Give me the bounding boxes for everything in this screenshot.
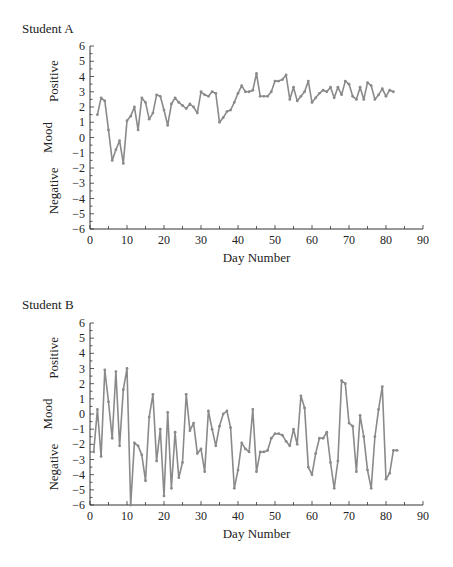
x-tick-label: 0 [87, 509, 93, 523]
x-axis-label: Day Number [223, 526, 291, 541]
data-point [166, 411, 169, 414]
y-axis-positive-label: Positive [46, 337, 61, 379]
data-point [170, 487, 173, 490]
data-point [359, 414, 362, 417]
data-point [340, 379, 343, 382]
x-tick-label: 50 [269, 509, 281, 523]
data-point [266, 449, 269, 452]
data-point [274, 432, 277, 435]
y-tick-label: 1 [79, 392, 85, 406]
x-tick-label: 80 [380, 509, 392, 523]
data-point [144, 479, 147, 482]
data-point [314, 452, 317, 455]
data-point [348, 422, 351, 425]
y-tick-label: −1 [72, 422, 85, 436]
data-point [337, 460, 340, 463]
y-tick-label: −4 [72, 468, 85, 482]
data-point [218, 425, 221, 428]
data-point [92, 451, 95, 454]
data-point [240, 441, 243, 444]
x-tick-label: 20 [158, 509, 170, 523]
data-point [251, 408, 254, 411]
data-point [118, 444, 121, 447]
x-tick-label: 60 [306, 509, 318, 523]
data-point [211, 428, 214, 431]
data-point [237, 469, 240, 472]
plot-student-b: 6543210−1−2−3−4−5−60102030405060708090Da… [0, 0, 453, 567]
data-point [370, 487, 373, 490]
data-point [381, 385, 384, 388]
x-tick-label: 10 [121, 509, 133, 523]
data-point [329, 461, 332, 464]
data-point [115, 370, 118, 373]
x-tick-label: 70 [343, 509, 355, 523]
y-tick-label: 0 [79, 407, 85, 421]
data-point [325, 431, 328, 434]
data-point [129, 504, 132, 507]
data-point [366, 469, 369, 472]
data-point [311, 473, 314, 476]
data-point [185, 393, 188, 396]
data-point [133, 441, 136, 444]
data-point [288, 444, 291, 447]
data-point [181, 461, 184, 464]
data-point [307, 466, 310, 469]
data-point [126, 367, 129, 370]
data-point [259, 451, 262, 454]
data-point [244, 447, 247, 450]
y-tick-label: −2 [72, 437, 85, 451]
data-point [103, 369, 106, 372]
y-tick-label: 6 [79, 316, 85, 330]
data-point [270, 437, 273, 440]
data-point [255, 470, 258, 473]
data-point [200, 447, 203, 450]
data-point [233, 487, 236, 490]
data-point [177, 476, 180, 479]
data-point [107, 400, 110, 403]
y-axis-negative-label: Negative [46, 443, 61, 490]
x-tick-label: 90 [417, 509, 429, 523]
data-point [122, 388, 125, 391]
data-point [281, 434, 284, 437]
data-point [351, 425, 354, 428]
data-point [362, 435, 365, 438]
data-point [396, 449, 399, 452]
y-tick-label: 2 [79, 377, 85, 391]
data-point [226, 410, 229, 413]
data-point [263, 451, 266, 454]
data-point [189, 429, 192, 432]
y-tick-label: 3 [79, 362, 85, 376]
data-point [318, 437, 321, 440]
y-tick-label: 5 [79, 331, 85, 345]
data-point [222, 413, 225, 416]
data-point [303, 407, 306, 410]
data-point [137, 444, 140, 447]
y-tick-label: −5 [72, 483, 85, 497]
data-point [248, 451, 251, 454]
data-point [277, 432, 280, 435]
data-point [296, 443, 299, 446]
data-point [374, 435, 377, 438]
y-tick-label: 4 [79, 346, 85, 360]
data-point [148, 416, 151, 419]
data-point [388, 472, 391, 475]
data-point [96, 408, 99, 411]
data-point [285, 440, 288, 443]
data-line [94, 369, 397, 506]
x-tick-label: 40 [232, 509, 244, 523]
data-point [377, 408, 380, 411]
y-tick-label: −6 [72, 498, 85, 512]
data-point [333, 487, 336, 490]
data-point [155, 460, 158, 463]
data-point [385, 478, 388, 481]
data-point [140, 454, 143, 457]
data-point [163, 495, 166, 498]
y-axis-label: Mood [40, 398, 55, 430]
data-point [355, 470, 358, 473]
x-tick-label: 30 [195, 509, 207, 523]
data-point [174, 431, 177, 434]
data-point [229, 426, 232, 429]
chart-student-b: Student B 6543210−1−2−3−4−5−601020304050… [0, 0, 453, 567]
data-point [207, 410, 210, 413]
data-point [322, 437, 325, 440]
